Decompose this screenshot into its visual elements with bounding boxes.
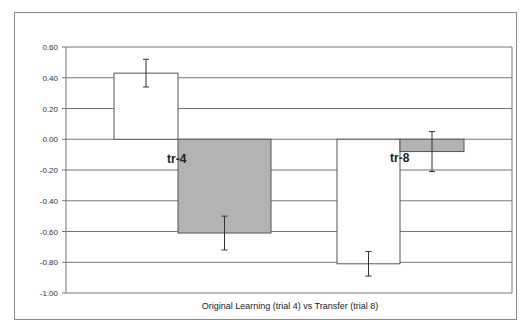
bar-chart: 0.600.400.200.00-0.20-0.40-0.60-0.80-1.0… bbox=[0, 0, 532, 333]
x-axis-label: Original Learning (trial 4) vs Transfer … bbox=[202, 301, 379, 311]
y-tick-label: -1.00 bbox=[40, 289, 59, 298]
y-tick-label: -0.60 bbox=[40, 228, 59, 237]
y-tick-label: 0.20 bbox=[42, 105, 58, 114]
y-tick-label: 0.40 bbox=[42, 74, 58, 83]
y-tick-label: -0.80 bbox=[40, 258, 59, 267]
y-axis-ticks: 0.600.400.200.00-0.20-0.40-0.60-0.80-1.0… bbox=[40, 43, 59, 298]
y-tick-label: 0.60 bbox=[42, 43, 58, 52]
y-tick-label: -0.20 bbox=[40, 166, 59, 175]
label-tr-8: tr-8 bbox=[390, 151, 410, 165]
y-tick-label: 0.00 bbox=[42, 135, 58, 144]
label-tr-4: tr-4 bbox=[167, 152, 187, 166]
y-tick-label: -0.40 bbox=[40, 197, 59, 206]
bars bbox=[114, 73, 464, 264]
